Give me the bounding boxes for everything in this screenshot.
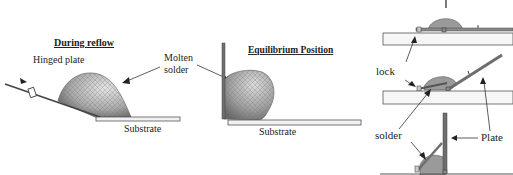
stage-2-plate bbox=[447, 55, 502, 90]
stage-1-plate bbox=[416, 28, 513, 31]
right-panel: lock solder Plate bbox=[375, 0, 513, 175]
left-panel: During reflow Hinged plate Substrate bbox=[5, 37, 180, 134]
middle-substrate-label: Substrate bbox=[259, 126, 297, 137]
hinged-plate-label: Hinged plate bbox=[33, 54, 85, 65]
lock-arrow-right-icon bbox=[408, 81, 416, 87]
left-substrate-label: Substrate bbox=[124, 123, 162, 134]
stage-1-flat bbox=[383, 0, 513, 45]
arrow-to-left-drop-icon bbox=[122, 77, 130, 84]
reflow-diagram: During reflow Hinged plate Substrate Mol… bbox=[0, 0, 513, 175]
stage-1-substrate bbox=[383, 33, 513, 45]
plate-label: Plate bbox=[481, 131, 503, 143]
molten-solder-annotation: Molten solder bbox=[122, 52, 232, 84]
middle-panel: Equilibrium Position Substrate bbox=[222, 43, 361, 137]
stage-2-substrate bbox=[383, 91, 513, 104]
molten-label-line1: Molten bbox=[164, 52, 193, 63]
rotation-arrow-icon bbox=[20, 78, 27, 84]
stage-2-rotating bbox=[383, 55, 513, 104]
stage-3-plate bbox=[443, 113, 447, 173]
solder-arrow-down-icon bbox=[419, 152, 426, 160]
lock-label: lock bbox=[376, 65, 395, 77]
middle-substrate bbox=[228, 120, 361, 125]
during-reflow-title: During reflow bbox=[54, 37, 115, 48]
vertical-plate bbox=[222, 43, 225, 119]
solder-label: solder bbox=[375, 129, 402, 141]
stage-3-locked bbox=[380, 113, 513, 175]
left-substrate bbox=[96, 117, 180, 121]
hinge bbox=[28, 87, 36, 97]
equilibrium-position-title: Equilibrium Position bbox=[248, 45, 334, 55]
plate-arrow-left-icon bbox=[451, 135, 457, 141]
plate-arrow-up-icon bbox=[480, 77, 486, 84]
molten-label-line2: solder bbox=[164, 64, 189, 75]
